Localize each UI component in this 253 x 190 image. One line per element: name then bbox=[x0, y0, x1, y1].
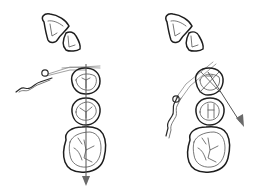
right-premolar-2-icon bbox=[196, 98, 224, 125]
right-incisor-pair-icon bbox=[166, 14, 203, 51]
right-premolar-1-icon bbox=[196, 68, 223, 95]
right-direction-arrow-icon bbox=[208, 72, 244, 127]
diagram-canvas bbox=[0, 0, 253, 190]
right-molar-icon bbox=[187, 127, 229, 172]
right-panel-drawing bbox=[0, 0, 253, 190]
